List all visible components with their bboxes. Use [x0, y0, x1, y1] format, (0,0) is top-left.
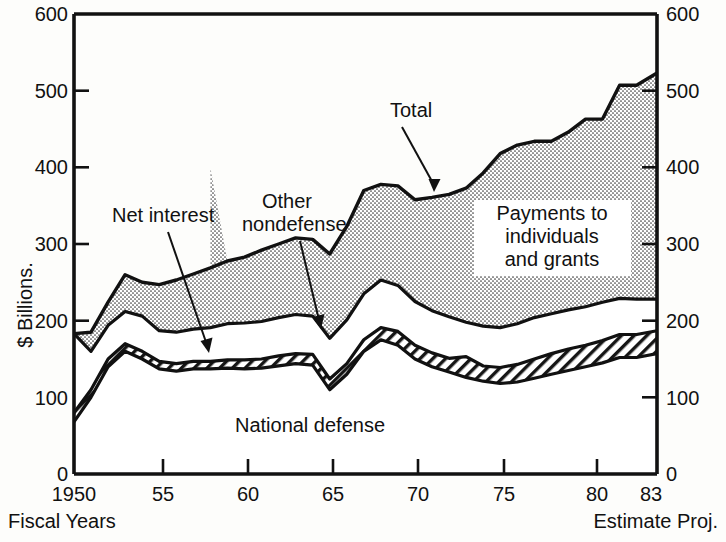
annotation-payments-line1: Payments to	[496, 202, 607, 224]
x-axis-title-right: Estimate Proj.	[594, 510, 718, 532]
y-tick-right-100: 100	[666, 387, 699, 409]
y-tick-300: 300	[35, 233, 68, 255]
y-axis-title: $ Billions.	[14, 262, 36, 348]
y-axis-labels-left: 600 500 400 300 200 100 0	[35, 3, 68, 485]
y-tick-600: 600	[35, 3, 68, 25]
x-axis-title-left: Fiscal Years	[8, 510, 116, 532]
x-tick-70: 70	[407, 483, 429, 505]
x-tick-55: 55	[152, 483, 174, 505]
y-tick-right-200: 200	[666, 310, 699, 332]
y-tick-0: 0	[57, 463, 68, 485]
annotation-total-label: Total	[390, 99, 432, 121]
annotation-payments-region: Payments to individuals and grants	[474, 200, 631, 276]
y-tick-200: 200	[35, 310, 68, 332]
x-tick-80: 80	[586, 483, 608, 505]
chart-figure: 600 500 400 300 200 100 0 600 500 400 30…	[0, 0, 726, 542]
x-tick-75: 75	[493, 483, 515, 505]
annotation-payments-line3: and grants	[505, 248, 600, 270]
y-tick-right-600: 600	[666, 3, 699, 25]
x-axis-labels: 1950 55 60 65 70 75 80 83	[52, 483, 662, 505]
x-tick-83: 83	[640, 483, 662, 505]
y-tick-right-400: 400	[666, 156, 699, 178]
annotation-other-nondefense-line1: Other	[262, 190, 312, 212]
annotation-net-interest-label: Net interest	[112, 204, 215, 226]
annotation-total: Total	[390, 99, 441, 192]
x-tick-1950: 1950	[52, 483, 97, 505]
y-tick-100: 100	[35, 387, 68, 409]
annotation-payments-line2: individuals	[505, 225, 598, 247]
x-tick-65: 65	[322, 483, 344, 505]
y-tick-right-500: 500	[666, 80, 699, 102]
y-axis-labels-right: 600 500 400 300 200 100 0	[666, 3, 699, 485]
y-tick-right-300: 300	[666, 233, 699, 255]
annotation-other-nondefense-line2: nondefense	[242, 213, 347, 235]
y-axis-ticks-left	[74, 91, 89, 321]
y-tick-right-0: 0	[666, 463, 677, 485]
y-tick-400: 400	[35, 156, 68, 178]
y-tick-500: 500	[35, 80, 68, 102]
stacked-area-chart: 600 500 400 300 200 100 0 600 500 400 30…	[0, 0, 726, 542]
x-tick-60: 60	[237, 483, 259, 505]
annotation-national-defense: National defense	[235, 414, 385, 436]
